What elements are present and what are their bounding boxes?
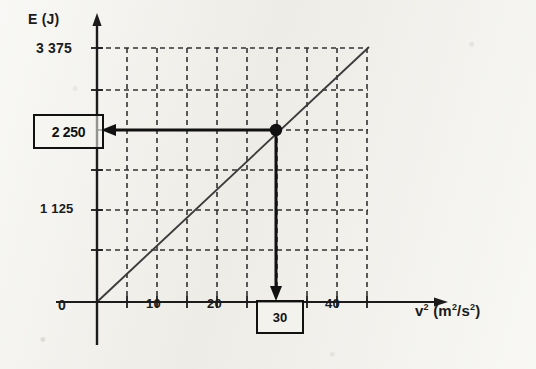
velocity-value-callout[interactable]: 30 (256, 300, 304, 334)
velocity-projection-arrowhead (270, 286, 282, 301)
x-tick-label-10: 10 (146, 296, 161, 311)
x-tick-label-40: 40 (325, 296, 340, 311)
x-axis-title-unit-mid: /s (457, 302, 470, 319)
y-tick-label-1125: 1 125 (40, 201, 74, 216)
x-axis-title-unit-open: (m (429, 302, 452, 319)
energy-value-callout[interactable]: 2 250 (33, 114, 104, 149)
grid-lines-vertical (127, 48, 367, 302)
x-tick-label-20: 20 (207, 296, 222, 311)
plot-line-energy (97, 47, 369, 302)
y-tick-label-3375: 3 375 (36, 40, 72, 56)
x-axis-title-unit-close: ) (475, 302, 480, 319)
y-axis-title: E (J) (28, 11, 59, 27)
x-axis-title-variable: v (415, 302, 424, 319)
energy-vs-velocity-squared-graph: E (J) 3 375 1 125 0 10 20 40 v2 (m2/s2) … (0, 0, 536, 369)
y-axis-arrowhead (92, 13, 101, 26)
x-axis-title: v2 (m2/s2) (415, 302, 480, 319)
x-tick-label-0: 0 (58, 297, 66, 313)
grid-lines-horizontal (97, 48, 368, 250)
operating-point-marker[interactable] (270, 124, 282, 136)
